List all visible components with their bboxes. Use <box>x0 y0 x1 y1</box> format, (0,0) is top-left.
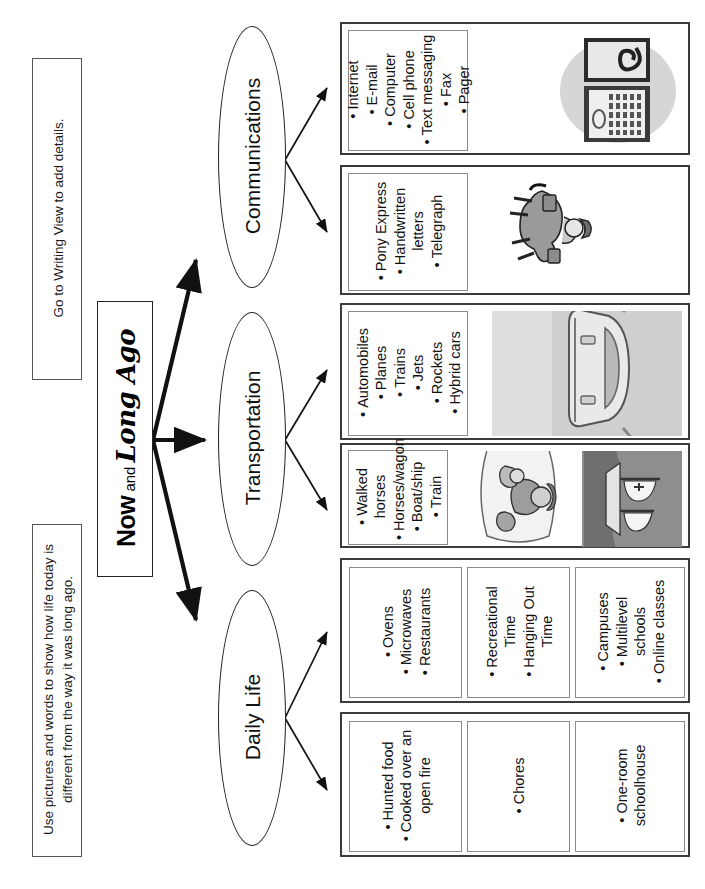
panel-daily-life-long-ago-group-1-list: Hunted food Cooked over an open fire <box>379 723 435 848</box>
page-title-and: and <box>121 462 138 495</box>
list-item: Internet <box>344 34 363 145</box>
panel-daily-life-long-ago-group-2-list: Chores <box>510 723 529 848</box>
list-item: Rockets <box>428 315 447 430</box>
list-item: Planes <box>372 315 391 430</box>
pony-express-rider-clipart <box>492 179 612 284</box>
list-item: Restaurants <box>416 571 435 692</box>
page-title-box: Now and Long Ago <box>97 301 153 577</box>
panel-daily-life-long-ago-group-1: Hunted food Cooked over an open fire <box>349 721 462 852</box>
panel-daily-life-now-group-1: Ovens Microwaves Restaurants <box>349 567 462 698</box>
panel-daily-life-long-ago-group-2: Chores <box>467 721 570 852</box>
panel-daily-life-now-group-2: Recreational Time Hanging Out Time <box>467 567 570 698</box>
list-item: Walked horses <box>353 453 390 540</box>
list-item: Fax <box>437 34 456 145</box>
list-item: Text messaging <box>418 34 437 145</box>
list-item: Telegraph <box>428 177 447 285</box>
branch-oval-transportation[interactable]: Transportation <box>218 312 286 566</box>
branch-oval-daily-life[interactable]: Daily Life <box>218 590 286 846</box>
branch-oval-communications[interactable]: Communications <box>218 26 286 288</box>
page-title-long-ago: Long Ago <box>111 329 141 462</box>
list-item: Cooked over an open fire <box>397 725 434 846</box>
list-item: Trains <box>391 315 410 430</box>
panel-transportation-now-list: Automobiles Planes Trains Jets Rockets H… <box>354 313 465 432</box>
panel-daily-life-long-ago-group-3-list: One-room schoolhouse <box>613 723 650 848</box>
list-item: Horses/wagon <box>390 453 409 540</box>
list-item: Train <box>427 453 446 540</box>
panel-daily-life-long-ago-group-3: One-room schoolhouse <box>575 721 685 852</box>
sailing-ship-clipart <box>582 451 682 547</box>
pioneer-family-clipart <box>462 451 572 547</box>
note-go-to-writing-view-text: Go to Writing View to add details. <box>49 63 68 373</box>
branch-oval-communications-label: Communications <box>241 25 265 287</box>
list-item: Chores <box>510 725 529 846</box>
list-item: Ovens <box>379 571 398 692</box>
note-go-to-writing-view: Go to Writing View to add details. <box>32 58 82 380</box>
panel-transportation-long-ago-list-box: Walked horses Horses/wagon Boat/ship Tra… <box>348 450 448 545</box>
list-item: Campuses <box>594 571 613 692</box>
list-item: Multilevel schools <box>613 571 650 692</box>
panel-daily-life-now-group-1-list: Ovens Microwaves Restaurants <box>379 569 435 694</box>
panel-daily-life-long-ago[interactable]: Hunted food Cooked over an open fire Cho… <box>340 712 690 857</box>
panel-transportation-long-ago[interactable]: Walked horses Horses/wagon Boat/ship Tra… <box>340 443 690 548</box>
panel-communications-long-ago[interactable]: Pony Express Handwritten letters Telegra… <box>340 165 690 295</box>
list-item: Boat/ship <box>408 453 427 540</box>
panel-daily-life-now-group-2-list: Recreational Time Hanging Out Time <box>483 569 557 694</box>
laptop-computer-clipart <box>550 32 685 150</box>
panel-daily-life-now[interactable]: Ovens Microwaves Restaurants Recreationa… <box>340 558 690 703</box>
panel-communications-now-list: Internet E-mail Computer Cell phone Text… <box>344 32 474 147</box>
list-item: E-mail <box>363 34 382 145</box>
panel-daily-life-now-group-3: Campuses Multilevel schools Online class… <box>575 567 685 698</box>
list-item: Microwaves <box>397 571 416 692</box>
list-item: Recreational Time <box>483 571 520 692</box>
list-item: Hybrid cars <box>446 315 465 430</box>
worksheet-canvas: Go to Writing View to add details. Use p… <box>0 0 705 889</box>
page-title-now: Now <box>112 496 140 547</box>
list-item: Handwritten letters <box>391 177 428 285</box>
note-use-pictures-and-words: Use pictures and words to show how life … <box>32 524 82 857</box>
list-item: Online classes <box>650 571 669 692</box>
list-item: One-room schoolhouse <box>613 725 650 846</box>
list-item: Jets <box>409 315 428 430</box>
list-item: Hunted food <box>379 725 398 846</box>
panel-daily-life-now-group-3-list: Campuses Multilevel schools Online class… <box>594 569 668 694</box>
panel-transportation-long-ago-list: Walked horses Horses/wagon Boat/ship Tra… <box>353 451 446 542</box>
list-item: Cell phone <box>400 34 419 145</box>
branch-oval-daily-life-label: Daily Life <box>241 589 265 845</box>
panel-communications-now[interactable]: Internet E-mail Computer Cell phone Text… <box>340 22 690 155</box>
list-item: Hanging Out Time <box>520 571 557 692</box>
panel-communications-long-ago-list-box: Pony Express Handwritten letters Telegra… <box>348 173 468 291</box>
car-clipart <box>492 311 682 436</box>
branch-oval-transportation-label: Transportation <box>241 311 265 565</box>
list-item: Pager <box>455 34 474 145</box>
page-title: Now and Long Ago <box>111 300 141 576</box>
panel-communications-now-list-box: Internet E-mail Computer Cell phone Text… <box>348 30 468 151</box>
list-item: Pony Express <box>372 177 391 285</box>
panel-transportation-now[interactable]: Automobiles Planes Trains Jets Rockets H… <box>340 303 690 440</box>
panel-communications-long-ago-list: Pony Express Handwritten letters Telegra… <box>372 175 446 287</box>
list-item: Automobiles <box>354 315 373 430</box>
panel-transportation-now-list-box: Automobiles Planes Trains Jets Rockets H… <box>348 311 468 436</box>
list-item: Computer <box>381 34 400 145</box>
note-use-pictures-and-words-text: Use pictures and words to show how life … <box>39 531 77 848</box>
